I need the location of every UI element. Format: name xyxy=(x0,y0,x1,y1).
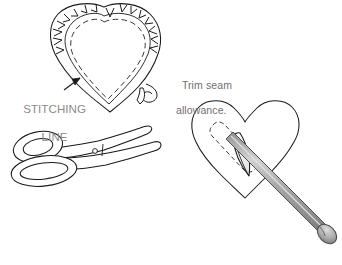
trim-seam-label-line1: Trim seam xyxy=(182,79,232,91)
trim-seam-allowance-label: Trim seam allowance. xyxy=(170,66,232,143)
trimmed-allowance-curl xyxy=(137,84,157,104)
illustration-canvas: STITCHING LINE Trim seam allowance. xyxy=(0,0,342,265)
stitching-line-label-line1: STITCHING xyxy=(23,103,86,115)
stitching-line-label: STITCHING LINE xyxy=(2,88,94,158)
stitching-line-label-line2: LINE xyxy=(42,131,68,143)
trim-seam-label-line2: allowance. xyxy=(170,104,232,117)
